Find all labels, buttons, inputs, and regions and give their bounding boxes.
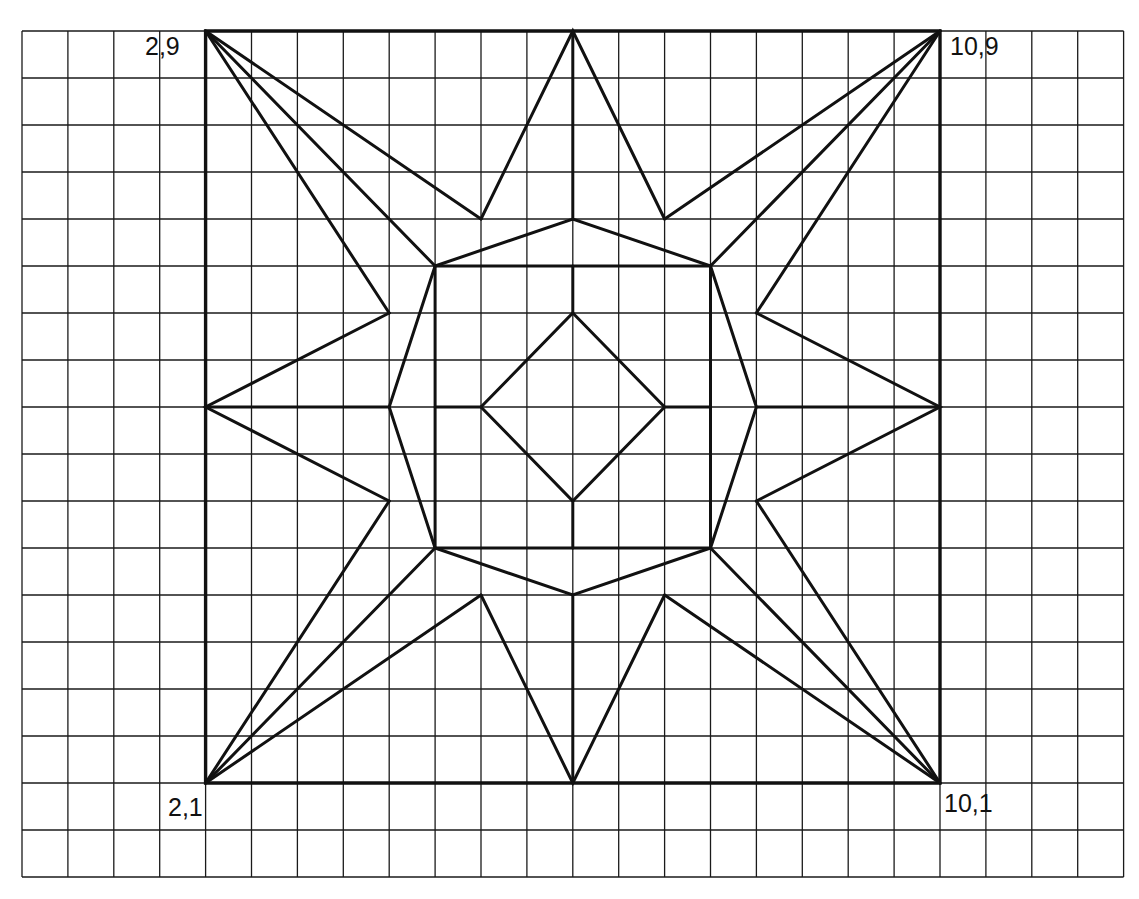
corner-fan-line — [711, 548, 941, 783]
corner-fan-line — [711, 31, 941, 266]
geometry-diagram: 2,9 10,9 2,1 10,1 — [0, 0, 1139, 899]
label-top-right: 10,9 — [950, 32, 999, 60]
corner-fan-line — [206, 31, 436, 266]
label-bottom-left: 2,1 — [168, 793, 203, 821]
label-bottom-right: 10,1 — [944, 789, 993, 817]
label-top-left: 2,9 — [145, 32, 180, 60]
corner-fan-line — [206, 548, 436, 783]
